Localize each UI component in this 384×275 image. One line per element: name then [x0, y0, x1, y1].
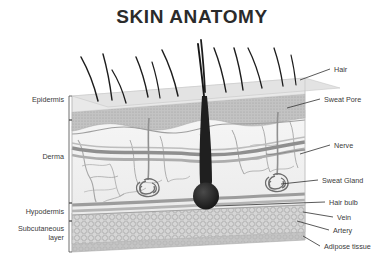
label-subcutaneous_line2: layer	[48, 234, 64, 242]
sweat-duct-right	[277, 112, 278, 175]
bracket-subcutaneous	[69, 221, 72, 252]
leader-hair	[300, 69, 330, 80]
label-epidermis: Epidermis	[32, 96, 64, 104]
label-artery: Artery	[333, 227, 352, 235]
label-hair-bulb: Hair bulb	[329, 199, 358, 207]
label-sweat-pore: Sweat Pore	[324, 96, 361, 104]
label-adipose-tissue: Adipose tissue	[324, 243, 371, 251]
label-hypodermis: Hypodermis	[26, 208, 64, 216]
bracket-hypodermis	[69, 203, 72, 221]
leader-vein	[303, 212, 333, 217]
sweat-duct-left	[148, 118, 149, 180]
hair-bulb-shape	[193, 183, 219, 210]
label-vein: Vein	[337, 214, 351, 222]
leader-adipose-tissue	[303, 236, 320, 246]
bracket-epidermis	[69, 96, 72, 120]
label-derma: Derma	[42, 153, 64, 161]
layer-brackets	[69, 96, 72, 252]
label-hair: Hair	[334, 66, 347, 74]
bracket-derma	[69, 120, 72, 203]
skin-anatomy-figure: SKIN ANATOMY	[0, 0, 384, 275]
label-sweat-gland: Sweat Gland	[322, 177, 363, 185]
label-nerve: Nerve	[334, 142, 353, 150]
